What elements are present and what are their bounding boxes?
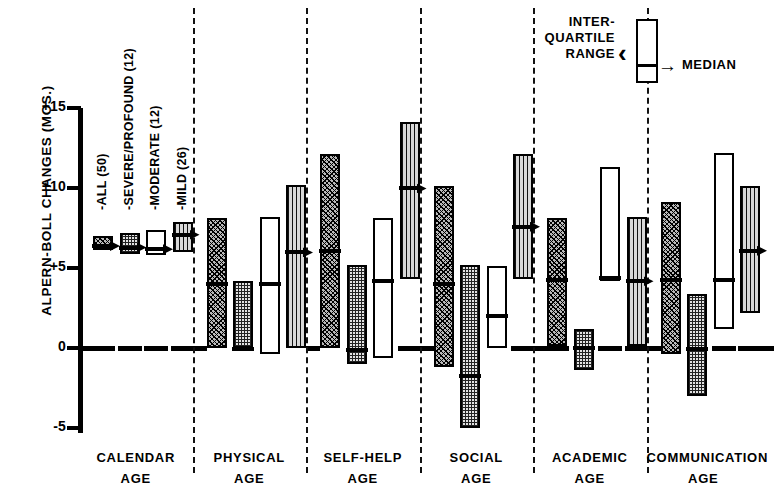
legend-bracket-icon: ‹ [618, 40, 627, 66]
median-line [599, 276, 621, 280]
median-pointer-icon [190, 230, 200, 240]
zero-line-segment-15 [712, 346, 736, 351]
zero-line-segment-1 [91, 346, 115, 351]
box-2-1 [347, 265, 367, 364]
group-separator-1 [193, 8, 195, 473]
y-tick-0 [67, 106, 81, 110]
legend-range-label: INTER- QUARTILE RANGE [505, 14, 615, 62]
legend-range-line3: RANGE [505, 46, 615, 62]
series-label-2: -MODERATE (12) [148, 105, 162, 210]
box-0-1 [120, 233, 140, 254]
category-label-line1: CALENDAR [79, 447, 193, 468]
median-line [686, 347, 708, 351]
y-tick-4 [67, 426, 81, 430]
zero-line-segment-14 [647, 346, 661, 351]
box-5-3 [740, 186, 760, 312]
median-line [259, 282, 281, 286]
legend-arrow-icon: → [658, 56, 677, 75]
box-3-3 [513, 154, 533, 279]
median-line [346, 348, 368, 352]
median-line [433, 282, 455, 286]
y-tick-label-4: -5 [12, 418, 66, 434]
box-4-0 [547, 218, 567, 346]
legend-range-line1: INTER- [505, 14, 615, 30]
box-5-0 [661, 202, 681, 354]
box-0-3 [173, 222, 193, 252]
category-label-line2: AGE [420, 468, 534, 489]
legend-median-line-icon [636, 64, 658, 67]
category-label-line1: ACADEMIC [533, 447, 647, 468]
category-label-line1: SOCIAL [420, 447, 534, 468]
box-3-1 [460, 265, 480, 428]
zero-line-segment-17 [760, 346, 774, 351]
median-line [486, 314, 508, 318]
box-0-0 [93, 236, 113, 250]
y-tick-label-2: +5 [12, 258, 66, 274]
zero-line-segment-16 [738, 346, 762, 351]
category-label-0: CALENDARAGE [79, 447, 193, 489]
y-axis-spine [78, 108, 83, 433]
legend-median-label: MEDIAN [682, 57, 736, 72]
category-label-line1: COMMUNICATION [647, 447, 761, 468]
category-label-5: COMMUNICATIONAGE [647, 447, 761, 489]
y-tick-2 [67, 266, 81, 270]
category-label-line2: AGE [193, 468, 307, 489]
median-pointer-icon [644, 276, 654, 286]
category-label-line2: AGE [647, 468, 761, 489]
box-1-3 [286, 185, 306, 348]
median-line [232, 347, 254, 351]
median-line [319, 249, 341, 253]
box-5-2 [714, 153, 734, 329]
y-tick-label-1: +10 [12, 178, 66, 194]
category-label-4: ACADEMICAGE [533, 447, 647, 489]
zero-line-segment-7 [398, 346, 422, 351]
median-pointer-icon [757, 246, 767, 256]
category-label-line2: AGE [79, 468, 193, 489]
y-tick-label-3: 0 [12, 338, 66, 354]
category-label-3: SOCIALAGE [420, 447, 534, 489]
box-1-0 [207, 218, 227, 348]
box-4-2 [600, 167, 620, 281]
legend-box-icon [636, 19, 658, 83]
zero-line-segment-2 [118, 346, 142, 351]
category-label-line1: SELF-HELP [306, 447, 420, 468]
box-5-1 [687, 294, 707, 396]
zero-line-segment-13 [625, 346, 649, 351]
box-2-3 [400, 122, 420, 279]
zero-line-segment-3 [144, 346, 168, 351]
zero-line-segment-9 [511, 346, 535, 351]
zero-line-segment-11 [545, 346, 569, 351]
box-2-2 [373, 218, 393, 357]
legend-range-line2: QUARTILE [505, 30, 615, 46]
zero-line-segment-12 [598, 346, 622, 351]
box-0-2 [146, 230, 166, 256]
median-line [573, 346, 595, 350]
y-tick-1 [67, 186, 81, 190]
median-line [713, 278, 735, 282]
group-separator-3 [420, 8, 422, 473]
box-3-0 [434, 186, 454, 367]
zero-line-segment-4 [171, 346, 195, 351]
median-line [372, 279, 394, 283]
median-line [459, 374, 481, 378]
median-line [660, 278, 682, 282]
median-pointer-icon [303, 247, 313, 257]
median-line [546, 278, 568, 282]
group-separator-2 [306, 8, 308, 473]
group-separator-4 [533, 8, 535, 473]
series-label-3: -MILD (26) [175, 147, 189, 210]
zero-line-segment-6 [306, 346, 320, 351]
box-4-1 [574, 329, 594, 371]
category-label-line2: AGE [533, 468, 647, 489]
box-4-3 [627, 217, 647, 347]
median-pointer-icon [417, 183, 427, 193]
box-1-1 [233, 281, 253, 348]
category-label-line1: PHYSICAL [193, 447, 307, 468]
box-3-2 [487, 266, 507, 348]
zero-line-segment-8 [420, 346, 434, 351]
zero-line-segment-5 [193, 346, 207, 351]
category-label-1: PHYSICALAGE [193, 447, 307, 489]
box-2-0 [320, 154, 340, 348]
box-1-2 [260, 217, 280, 355]
series-label-1: -SEVERE/PROFOUND (12) [122, 48, 136, 210]
